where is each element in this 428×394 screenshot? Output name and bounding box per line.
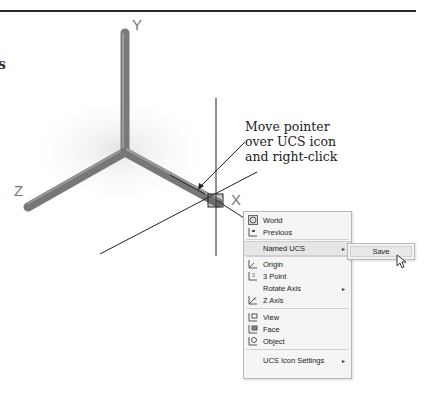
callout-line-3: and right-click — [245, 149, 337, 164]
menu-separator — [246, 349, 349, 350]
svg-text:Z: Z — [254, 296, 257, 301]
ucs-world-icon — [248, 215, 258, 225]
ucs-zaxis-icon: Z — [248, 295, 258, 305]
svg-text:3: 3 — [252, 272, 255, 278]
callout-text: Move pointer over UCS icon and right-cli… — [245, 119, 337, 164]
menu-item-object[interactable]: Object — [244, 335, 351, 347]
y-axis-label: Y — [132, 16, 142, 33]
menu-item-rotate-axis[interactable]: Rotate Axis ▸ — [244, 282, 351, 294]
x-axis-label: X — [231, 191, 241, 208]
ucs-object-icon — [248, 336, 258, 346]
callout-line-2: over UCS icon — [245, 134, 337, 149]
ucs-3point-icon: 3 — [248, 271, 258, 281]
menu-item-named-ucs[interactable]: Named UCS ▸ — [244, 241, 351, 256]
ucs-3d-scene — [0, 0, 428, 394]
mouse-pointer-icon — [396, 254, 408, 270]
menu-item-face[interactable]: Face — [244, 323, 351, 335]
submenu-arrow-icon: ▸ — [342, 357, 345, 364]
ucs-face-icon — [248, 324, 258, 334]
ucs-context-menu: World Previous Named UCS ▸ Origin 3 3 Po… — [243, 211, 352, 379]
menu-item-world[interactable]: World — [244, 214, 351, 226]
ucs-previous-icon — [248, 227, 258, 237]
menu-item-3-point[interactable]: 3 3 Point — [244, 270, 351, 282]
ucs-view-icon — [248, 312, 258, 322]
menu-separator — [246, 256, 349, 257]
submenu-arrow-icon: ▸ — [342, 245, 345, 252]
menu-item-z-axis[interactable]: Z Z Axis — [244, 294, 351, 306]
menu-item-ucs-icon-settings[interactable]: UCS Icon Settings ▸ — [244, 354, 351, 366]
menu-separator — [246, 239, 349, 240]
menu-item-previous[interactable]: Previous — [244, 226, 351, 238]
callout-line-1: Move pointer — [245, 119, 337, 134]
menu-separator — [246, 308, 349, 309]
pickbox — [208, 194, 223, 207]
menu-item-origin[interactable]: Origin — [244, 258, 351, 270]
ucs-origin-icon — [248, 259, 258, 269]
menu-item-view[interactable]: View — [244, 311, 351, 323]
submenu-arrow-icon: ▸ — [342, 285, 345, 292]
z-axis-label: Z — [14, 182, 23, 199]
